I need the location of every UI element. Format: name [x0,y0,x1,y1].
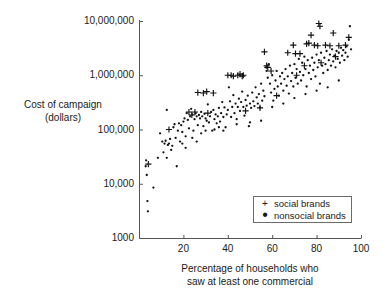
scatter-chart-figure: Cost of campaign (dollars) Percentage of… [0,0,383,295]
dot-marker-icon: • [258,210,272,222]
legend-label-nonsocial: nonsocial brands [274,210,346,222]
legend-entry-nonsocial: • nonsocial brands [254,210,353,222]
plot-canvas [0,0,383,295]
legend-label-social: social brands [274,198,330,210]
chart-legend: + social brands • nonsocial brands [253,196,352,223]
series-social-brands [145,20,352,167]
legend-entry-social: + social brands [254,198,353,210]
series-nonsocial-brands [145,25,353,212]
